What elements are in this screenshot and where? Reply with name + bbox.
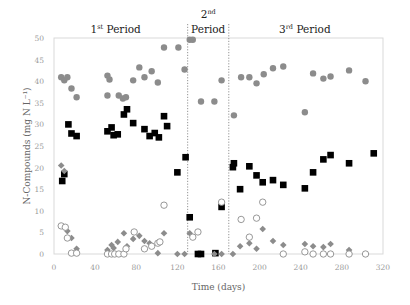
period-label: 1st Period	[91, 23, 141, 35]
data-point-open-circle	[157, 239, 163, 245]
data-point-circle	[155, 79, 161, 85]
data-point-open-circle	[62, 224, 68, 230]
data-point-square	[161, 113, 168, 120]
data-point-square	[302, 185, 309, 192]
data-point-circle	[123, 94, 129, 100]
y-tick-label: 20	[34, 164, 44, 173]
data-point-circle	[148, 68, 154, 74]
data-point-circle	[231, 112, 237, 118]
data-point-open-circle	[195, 229, 201, 235]
data-point-open-circle	[64, 235, 70, 241]
data-point-open-circle	[190, 234, 196, 240]
data-point-square	[310, 169, 317, 176]
period-label: Period	[191, 23, 226, 35]
data-point-diamond	[259, 226, 266, 233]
data-point-circle	[136, 64, 142, 70]
y-tick-label: 35	[34, 99, 44, 108]
data-point-square	[259, 179, 266, 186]
data-point-circle	[246, 74, 252, 80]
data-point-circle	[181, 66, 187, 72]
data-point-diamond	[58, 162, 65, 169]
data-point-diamond	[155, 250, 162, 257]
data-point-square	[108, 124, 115, 131]
data-point-open-circle	[260, 199, 266, 205]
data-point-open-circle	[161, 202, 167, 208]
data-point-open-circle	[302, 249, 308, 255]
data-point-square	[198, 251, 205, 258]
data-point-diamond	[161, 230, 168, 237]
data-point-diamond	[253, 246, 260, 253]
data-point-open-circle	[73, 250, 79, 256]
data-point-circle	[238, 74, 244, 80]
data-point-square	[237, 186, 244, 193]
data-point-diamond	[237, 243, 244, 250]
data-point-square	[346, 160, 353, 167]
data-point-open-circle	[123, 246, 129, 252]
scatter-plot: 0510152025303540455004080120160200240280…	[0, 0, 410, 305]
y-tick-label: 10	[34, 207, 44, 216]
data-point-open-circle	[327, 251, 333, 257]
data-point-diamond	[230, 251, 237, 258]
y-tick-label: 0	[39, 250, 44, 259]
data-point-circle	[161, 44, 167, 50]
y-axis-label: N-Compounds (mg N L⁻¹)	[22, 87, 32, 204]
data-point-open-circle	[253, 215, 259, 221]
x-tick-label: 160	[211, 263, 226, 272]
data-point-diamond	[310, 243, 317, 250]
x-tick-label: 0	[52, 263, 57, 272]
data-point-diamond	[114, 239, 121, 246]
data-point-square	[65, 121, 72, 128]
data-point-circle	[270, 65, 276, 71]
x-tick-label: 240	[294, 263, 309, 272]
x-tick-label: 200	[252, 263, 267, 272]
data-point-square	[327, 152, 334, 159]
data-point-square	[280, 182, 287, 189]
data-point-circle	[253, 80, 259, 86]
data-point-circle	[73, 94, 79, 100]
data-point-circle	[190, 37, 196, 43]
data-point-square	[231, 160, 238, 167]
data-point-open-circle	[148, 243, 154, 249]
data-point-circle	[211, 98, 217, 104]
x-tick-label: 320	[376, 263, 391, 272]
data-point-circle	[302, 109, 308, 115]
x-tick-label: 80	[131, 263, 141, 272]
data-point-circle	[320, 75, 326, 81]
data-point-square	[186, 214, 193, 221]
data-point-diamond	[121, 230, 128, 237]
data-point-square	[130, 120, 137, 127]
y-tick-label: 45	[34, 56, 44, 65]
data-point-circle	[141, 74, 147, 80]
x-tick-label: 280	[335, 263, 350, 272]
data-point-diamond	[320, 244, 327, 251]
data-point-open-circle	[346, 251, 352, 257]
data-point-open-circle	[131, 229, 137, 235]
data-point-square	[246, 163, 253, 170]
data-point-diamond	[218, 251, 225, 258]
y-tick-label: 50	[34, 34, 44, 43]
data-point-open-circle	[238, 216, 244, 222]
data-point-circle	[346, 67, 352, 73]
chart: 0510152025303540455004080120160200240280…	[0, 0, 410, 305]
y-tick-label: 5	[39, 228, 44, 237]
data-point-circle	[104, 92, 110, 98]
data-point-circle	[64, 74, 70, 80]
y-tick-label: 15	[34, 185, 44, 194]
data-point-square	[114, 131, 121, 138]
data-point-circle	[130, 77, 136, 83]
data-point-square	[270, 177, 277, 184]
data-point-square	[370, 150, 377, 157]
data-point-square	[253, 172, 260, 179]
data-point-square	[320, 156, 327, 163]
data-point-circle	[198, 98, 204, 104]
data-point-open-circle	[246, 234, 252, 240]
data-point-diamond	[302, 241, 309, 248]
data-point-open-circle	[218, 199, 224, 205]
data-point-open-circle	[310, 251, 316, 257]
data-point-circle	[175, 44, 181, 50]
data-point-square	[156, 134, 163, 141]
plot-area	[54, 38, 383, 254]
data-point-circle	[218, 77, 224, 83]
data-point-open-circle	[280, 251, 286, 257]
x-tick-label: 40	[90, 263, 100, 272]
